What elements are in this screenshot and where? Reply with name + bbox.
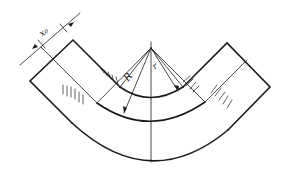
- outer-arc: [72, 123, 228, 161]
- hatching-right: [183, 76, 232, 108]
- inner-arc: [120, 87, 183, 98]
- pipe-bend-diagram: x₀ R r: [0, 0, 283, 170]
- right-pipe-section: [183, 43, 270, 130]
- left-pipe-section: [30, 40, 120, 123]
- x0-label: x₀: [37, 25, 50, 38]
- R-label: R: [120, 70, 134, 84]
- x0-dimension: [20, 13, 80, 65]
- hatching-left: [63, 67, 118, 104]
